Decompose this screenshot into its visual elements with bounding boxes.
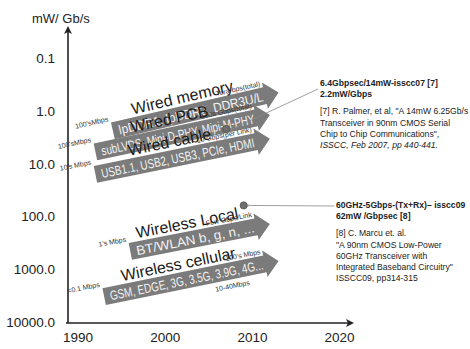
annotation-ref7: 6.4Gbpsec/14mW-isscc07 [7] 2.2mW/Gbps [7… (320, 78, 470, 151)
ref7-citation-2: Transceiver in 90nm CMOS Serial (320, 118, 470, 129)
x-tick-label: 1990 (63, 330, 93, 345)
y-tick-label: 10.0 (29, 157, 55, 172)
band-start-rate: 100'sMbps (74, 115, 109, 130)
ref7-citation-1: [7] R. Palmer, et al, "A 14mW 6.25Gb/s (320, 106, 470, 117)
chart: mW/ Gb/s 0.11.010.0100.01000.010000.0 19… (0, 0, 470, 349)
data-point (223, 125, 230, 132)
y-tick-label: 10000.0 (6, 315, 55, 330)
ref7-headline-2: 2.2mW/Gbps (320, 89, 470, 100)
ref8-citation-3: 60GHz Transceiver with (336, 251, 470, 262)
ref7-headline-1: 6.4Gbpsec/14mW-isscc07 [7] (320, 78, 470, 89)
band-start-rate: <0.1 Mbps (67, 281, 101, 296)
leader-line (250, 205, 334, 206)
band-start-rate: 100'sMbps (57, 136, 92, 151)
annotation-ref8: 60GHz-5Gbps-(Tx+Rx)– isscc09 62mW /Gbpse… (336, 200, 470, 284)
ref8-headline-2: 62mW /Gbpsec [8] (336, 211, 470, 222)
x-tick-label: 2010 (237, 330, 267, 345)
ref8-citation-1: [8] C. Marcu et. al. (336, 228, 470, 239)
x-tick-label: 2000 (150, 330, 180, 345)
band-start-rate: 10's Mbps (59, 159, 92, 173)
y-tick-label: 0.1 (36, 51, 55, 66)
ref8-citation-2: "A 90nm CMOS Low-Power (336, 240, 470, 251)
data-point (240, 202, 247, 209)
ref7-citation-3: Chip to Chip Communications", (320, 129, 470, 140)
ref8-citation-5: ISSCC09, pp314-315 (336, 273, 470, 284)
y-tick-label: 1000.0 (14, 262, 55, 277)
y-axis-label: mW/ Gb/s (32, 11, 90, 26)
ref8-headline-1: 60GHz-5Gbps-(Tx+Rx)– isscc09 (336, 200, 470, 211)
ref7-citation-4: ISSCC, Feb 2007, pp 440-441. (320, 140, 470, 151)
band-start-rate: 1's Mbps (98, 235, 127, 248)
y-tick-label: 1.0 (36, 104, 55, 119)
y-tick-label: 100.0 (21, 209, 55, 224)
ref8-citation-4: Integrated Baseband Circuitry" (336, 262, 470, 273)
x-tick-label: 2020 (325, 330, 355, 345)
